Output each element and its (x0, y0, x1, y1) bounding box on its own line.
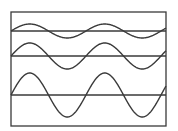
waves-diagram (0, 0, 178, 131)
waves-canvas (0, 0, 178, 131)
waves-group (11, 24, 166, 117)
